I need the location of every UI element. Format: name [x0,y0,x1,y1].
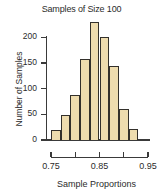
x-axis-tick-label: 0.75 [36,161,66,171]
histogram-bar [100,37,110,140]
histogram-figure: Samples of Size 100 Number of Samples 05… [0,0,163,196]
histogram-bar [70,95,80,140]
histogram-bar [51,130,61,140]
histogram-bar [80,59,90,140]
histogram-bar [90,22,100,140]
x-axis-tick-label: 0.85 [85,161,115,171]
histogram-bar [119,109,129,140]
x-axis-label: Sample Proportions [30,179,163,189]
x-axis-tick [75,152,76,157]
histogram-bar [109,66,119,140]
histogram-bar [129,129,139,140]
x-axis-tick [50,152,51,157]
x-axis-tick [123,152,124,157]
x-axis-tick-label: 0.95 [133,161,163,171]
histogram-bar [61,115,71,140]
x-axis-tick [99,152,100,157]
x-axis-tick [147,152,148,157]
